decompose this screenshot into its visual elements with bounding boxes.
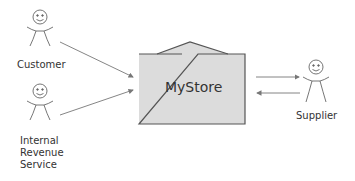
supplier-label: Supplier [296, 110, 337, 122]
irs-actor-icon [27, 84, 53, 120]
flow-irs-to-mystore [60, 90, 133, 115]
customer-actor-icon [27, 10, 53, 46]
irs-label-line-1: Internal [20, 135, 64, 147]
supplier-actor-icon [303, 60, 329, 102]
flow-customer-to-mystore [60, 42, 133, 77]
irs-label-line-3: Service [20, 159, 64, 171]
irs-label: Internal Revenue Service [20, 135, 64, 171]
customer-label: Customer [17, 59, 66, 71]
mystore-label: MyStore [165, 79, 222, 95]
irs-label-line-2: Revenue [20, 147, 64, 159]
